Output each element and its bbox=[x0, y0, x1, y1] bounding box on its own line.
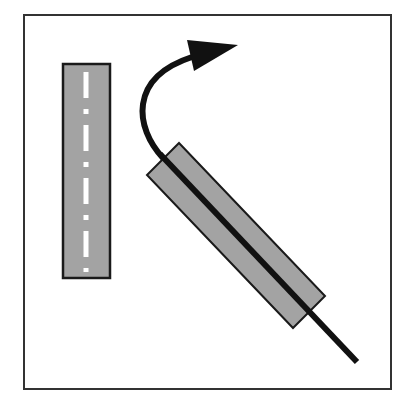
center-dash bbox=[84, 178, 89, 204]
diagram-canvas bbox=[0, 0, 409, 401]
center-dash bbox=[84, 72, 89, 98]
maneuver-diagram bbox=[0, 0, 409, 401]
center-dash bbox=[84, 231, 89, 257]
path-curve-arrow bbox=[142, 57, 192, 158]
center-dot bbox=[84, 109, 89, 114]
arrowhead-icon bbox=[187, 40, 238, 71]
straight-road bbox=[63, 64, 110, 278]
center-dash bbox=[84, 125, 89, 151]
center-dot bbox=[84, 215, 89, 220]
center-dot bbox=[84, 268, 89, 272]
path-straight-line bbox=[160, 154, 357, 362]
center-dot bbox=[84, 162, 89, 167]
